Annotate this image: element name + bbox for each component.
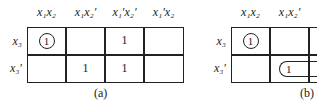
divider bbox=[231, 54, 317, 56]
row-header: x₃′ bbox=[2, 61, 22, 76]
caption: (a) bbox=[94, 86, 107, 101]
cell: 1 bbox=[27, 27, 66, 54]
col-header: x₁x₂′ bbox=[66, 5, 105, 20]
circled-minterm: 1 bbox=[243, 33, 259, 49]
cell: 1 bbox=[231, 27, 270, 54]
caption: (b) bbox=[300, 86, 314, 101]
cell: 1 bbox=[66, 55, 105, 82]
col-header: x₁x₂ bbox=[231, 5, 270, 20]
circled-minterm: 1 bbox=[39, 33, 55, 49]
row-header: x₃ bbox=[206, 34, 226, 49]
row-header: x₃ bbox=[2, 34, 22, 49]
cell: 1 bbox=[105, 55, 144, 82]
col-header: x₁x₂ bbox=[27, 5, 66, 20]
grouping-loop: 1 bbox=[279, 61, 317, 77]
row-header: x₃′ bbox=[206, 61, 226, 76]
col-header: x₁x₂′ bbox=[270, 5, 309, 20]
col-header: x₁′x₂ bbox=[144, 5, 183, 20]
col-header: x₁′x₂′ bbox=[105, 5, 144, 20]
cell: 1 bbox=[105, 27, 144, 54]
